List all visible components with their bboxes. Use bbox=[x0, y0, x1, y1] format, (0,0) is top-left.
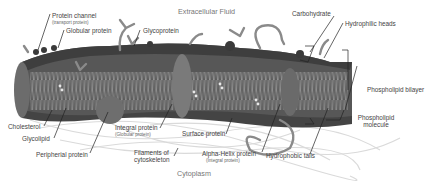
label-phospholipid-molecule: Phospholipid molecule bbox=[346, 114, 406, 128]
label-protein-channel: Protein channel (transport protein) bbox=[52, 12, 96, 26]
label-hydrophilic-heads: Hydrophilic heads bbox=[345, 20, 396, 27]
label-phospholipid-bilayer: Phospholipid bilayer bbox=[367, 86, 424, 93]
label-globular-protein: Globular protein bbox=[66, 27, 111, 34]
region-cytoplasm: Cytoplasm bbox=[177, 170, 211, 177]
label-hydrophobic-tails: Hydrophobic tails bbox=[266, 152, 315, 159]
label-integral-protein: Integral protein (Globular protein) bbox=[115, 124, 158, 138]
cell-membrane-diagram: Extracellular Fluid Protein channel (tra… bbox=[0, 0, 432, 186]
label-cholesterol: Cholesterol bbox=[8, 123, 40, 130]
label-carbohydrate: Carbohydrate bbox=[292, 10, 331, 17]
label-alpha-helix-protein: Alpha-Helix protein (Integral protein) bbox=[202, 150, 256, 164]
label-peripheral-protein: Peripherial protein bbox=[36, 151, 88, 158]
label-surface-protein: Surface protein bbox=[182, 130, 225, 137]
label-glycolipid: Glycolipid bbox=[22, 135, 50, 142]
label-filaments-of-cytoskeleton: Filaments of cytoskeleton bbox=[134, 149, 170, 163]
label-glycoprotein: Glycoprotein bbox=[143, 27, 179, 34]
region-extracellular-fluid: Extracellular Fluid bbox=[178, 8, 235, 15]
